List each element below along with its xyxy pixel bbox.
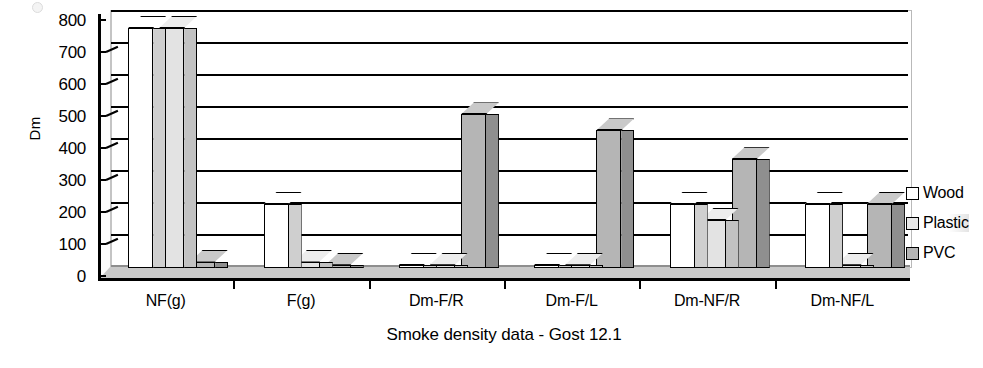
bar-front-face: [670, 204, 695, 268]
bar-wood-fg: [264, 204, 289, 268]
bar-top-face: [534, 253, 572, 265]
bar-wood-dmnfl: [805, 204, 830, 268]
bar-top-face: [399, 253, 437, 265]
bar-side-face: [455, 265, 468, 268]
x-axis-labels: NF(g)F(g)Dm-F/RDm-F/LDm-NF/RDm-NF/L: [98, 292, 910, 316]
bar-side-face: [320, 262, 333, 268]
bar-side-face: [486, 114, 499, 268]
x-tick-label: F(g): [287, 292, 316, 310]
x-tick-mark: [639, 280, 641, 289]
bar-front-face: [264, 204, 289, 268]
bar-side-face: [757, 159, 770, 268]
bar-front-face: [399, 265, 424, 268]
bar-front-face: [596, 130, 621, 268]
bar-pvc-dmnfl: [867, 204, 892, 268]
bar-side-face: [590, 265, 603, 268]
bar-side-face: [351, 265, 364, 268]
y-axis-ticks: 8007006005004003002001000: [36, 10, 92, 278]
chart-legend: WoodPlasticPVC: [906, 178, 983, 268]
bar-side-face: [559, 265, 572, 268]
bar-wood-dmnfr: [670, 204, 695, 268]
bar-side-face: [289, 204, 302, 268]
bar-side-face: [153, 28, 166, 268]
bar-side-face: [892, 204, 905, 268]
bar-pvc-dmfl: [596, 130, 621, 268]
x-tick-mark: [369, 280, 371, 289]
x-tick-label: NF(g): [146, 292, 186, 310]
legend-item-wood[interactable]: Wood: [906, 178, 983, 208]
x-axis-title: Smoke density data - Gost 12.1: [98, 325, 910, 345]
y-tick-label: 0: [77, 268, 86, 285]
x-tick-label: Dm-F/L: [546, 292, 598, 310]
bar-front-face: [461, 114, 486, 268]
legend-swatch-icon: [906, 247, 919, 260]
x-tick-mark: [233, 280, 235, 289]
bar-top-face: [128, 16, 166, 28]
bar-side-face: [830, 204, 843, 268]
x-tick-label: Dm-NF/L: [811, 292, 874, 310]
y-tick-label: 600: [59, 76, 86, 93]
bar-top-face: [805, 192, 843, 204]
bar-side-face: [184, 28, 197, 268]
bar-top-face: [159, 16, 197, 28]
bar-top-face: [264, 192, 302, 204]
chart-figure: Dm 8007006005004003002001000 NF(g)F(g)Dm…: [0, 0, 983, 368]
y-tick-label: 500: [59, 108, 86, 125]
legend-item-pvc[interactable]: PVC: [906, 238, 983, 268]
bar-pvc-dmfr: [461, 114, 486, 268]
bar-front-face: [805, 204, 830, 268]
bar-top-face: [596, 118, 634, 130]
y-tick-label: 800: [59, 12, 86, 29]
bar-side-face: [726, 220, 739, 268]
bar-side-face: [621, 130, 634, 268]
bar-side-face: [861, 265, 874, 268]
y-tick-label: 700: [59, 44, 86, 61]
bar-top-face: [670, 192, 708, 204]
legend-item-label: PVC: [923, 244, 955, 262]
legend-item-label: Wood: [923, 184, 964, 202]
bar-top-face: [867, 192, 905, 204]
bar-front-face: [867, 204, 892, 268]
y-tick-label: 400: [59, 140, 86, 157]
x-tick-label: Dm-NF/R: [674, 292, 740, 310]
x-tick-mark: [504, 280, 506, 289]
legend-item-plastic[interactable]: Plastic: [906, 208, 983, 238]
x-tick-label: Dm-F/R: [409, 292, 464, 310]
legend-swatch-icon: [906, 187, 919, 200]
bar-front-face: [128, 28, 153, 268]
bar-wood-dmfr: [399, 265, 424, 268]
y-tick-label: 300: [59, 172, 86, 189]
y-tick-label: 100: [59, 236, 86, 253]
bar-top-face: [461, 102, 499, 114]
bar-front-face: [534, 265, 559, 268]
legend-item-label: Plastic: [923, 214, 969, 232]
bar-side-face: [424, 265, 437, 268]
x-tick-mark: [775, 280, 777, 289]
y-tick-label: 200: [59, 204, 86, 221]
plot-area: [98, 10, 910, 280]
bar-side-face: [215, 262, 228, 268]
legend-swatch-icon: [906, 217, 919, 230]
bar-wood-dmfl: [534, 265, 559, 268]
bar-top-face: [732, 147, 770, 159]
bar-side-face: [695, 204, 708, 268]
bar-wood-nfg: [128, 28, 153, 268]
